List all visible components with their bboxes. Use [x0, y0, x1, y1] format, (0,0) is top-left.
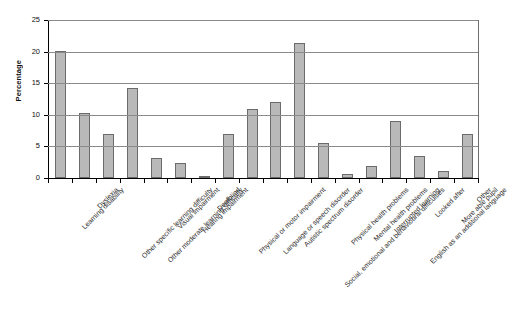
gridline: [48, 52, 478, 53]
y-tick-label: 0: [16, 174, 40, 182]
y-tick-mark: [44, 115, 48, 116]
bar: [438, 171, 449, 178]
x-tick-mark: [263, 179, 264, 183]
x-tick-mark: [215, 179, 216, 183]
x-tick-mark: [382, 179, 383, 183]
x-axis-labels: Learning disabilityDyslexiaOther specifi…: [0, 184, 497, 314]
bars-layer: [49, 20, 479, 178]
bar: [414, 156, 425, 178]
gridline: [48, 115, 478, 116]
gridline: [48, 146, 478, 147]
y-tick-mark: [44, 146, 48, 147]
x-tick-mark: [287, 179, 288, 183]
bar: [247, 109, 258, 178]
x-tick-mark: [311, 179, 312, 183]
x-tick-mark: [96, 179, 97, 183]
y-tick-label: 5: [16, 142, 40, 150]
gridline: [48, 83, 478, 84]
x-axis-label: English as an additional language: [429, 186, 508, 265]
x-tick-mark: [120, 179, 121, 183]
bar: [366, 166, 377, 178]
y-tick-label: 20: [16, 48, 40, 56]
x-tick-mark: [239, 179, 240, 183]
y-tick-label: 10: [16, 111, 40, 119]
bar: [223, 134, 234, 178]
bar: [151, 158, 162, 178]
gridline: [48, 20, 478, 21]
x-tick-mark: [478, 179, 479, 183]
bar: [127, 88, 138, 178]
plot-area: [48, 20, 479, 179]
bar: [318, 143, 329, 178]
bar: [199, 176, 210, 178]
y-tick-label: 25: [16, 16, 40, 24]
y-tick-mark: [44, 20, 48, 21]
y-tick-mark: [44, 83, 48, 84]
x-axis-label: Learning disability: [80, 186, 125, 231]
x-tick-mark: [359, 179, 360, 183]
bar: [342, 174, 353, 178]
bar: [175, 163, 186, 178]
x-tick-mark: [191, 179, 192, 183]
bar: [462, 134, 473, 178]
x-tick-mark: [430, 179, 431, 183]
x-tick-mark: [406, 179, 407, 183]
y-tick-mark: [44, 52, 48, 53]
x-tick-mark: [72, 179, 73, 183]
x-tick-mark: [335, 179, 336, 183]
x-tick-mark: [144, 179, 145, 183]
x-tick-mark: [48, 179, 49, 183]
bar: [103, 134, 114, 178]
y-tick-label: 15: [16, 79, 40, 87]
x-tick-mark: [454, 179, 455, 183]
bar: [294, 43, 305, 178]
bar: [390, 121, 401, 179]
x-tick-mark: [167, 179, 168, 183]
bar: [270, 102, 281, 178]
